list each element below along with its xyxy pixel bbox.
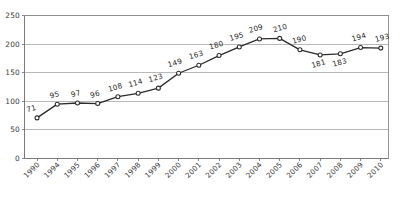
chart-canvas: 050100150200250 199019941995199619971998… [0, 0, 407, 197]
x-tick-label-2000: 2000 [163, 160, 183, 180]
data-point-label-2007: 181 [310, 57, 326, 70]
data-point-marker [96, 102, 100, 106]
data-point-label-2010: 193 [374, 31, 391, 44]
data-point-marker [278, 36, 282, 40]
data-point-marker [55, 102, 59, 106]
x-tick-label-2004: 2004 [244, 160, 264, 180]
x-tick-label-2006: 2006 [284, 160, 304, 180]
x-tick-label-2007: 2007 [305, 160, 325, 180]
x-tick-label-2009: 2009 [345, 160, 365, 180]
x-tick-label-1998: 1998 [123, 160, 143, 180]
data-point-label-1998: 114 [127, 77, 144, 90]
data-point-label-1999: 123 [147, 71, 164, 84]
data-point-label-2001: 163 [188, 48, 205, 61]
x-tick-label-2005: 2005 [264, 160, 284, 180]
data-point-label-2003: 195 [228, 30, 244, 43]
y-tick-label-0: 0 [15, 154, 20, 163]
data-point-value-labels: 7195979610811412314916318019520921019018… [25, 22, 390, 115]
x-tick-label-2010: 2010 [365, 160, 385, 180]
data-point-label-2009: 194 [351, 31, 368, 44]
series-polyline [37, 38, 381, 118]
x-tick-label-1999: 1999 [143, 160, 163, 180]
x-tick-label-1996: 1996 [82, 160, 102, 180]
x-tick-label-2001: 2001 [183, 160, 203, 180]
x-axis-tick-labels: 1990199419951996199719981999200020012002… [22, 159, 386, 180]
x-tick-label-1995: 1995 [62, 160, 82, 180]
data-point-label-1994: 95 [49, 89, 61, 100]
data-point-marker [318, 53, 322, 57]
data-point-label-1996: 96 [89, 88, 101, 99]
x-tick-label-1990: 1990 [22, 160, 42, 180]
data-point-marker [156, 86, 160, 90]
data-point-marker [379, 46, 383, 50]
data-point-marker [237, 45, 241, 49]
data-point-marker [257, 37, 261, 41]
data-point-label-2008: 183 [331, 56, 348, 69]
y-tick-label-200: 200 [5, 40, 20, 49]
y-tick-label-250: 250 [5, 11, 20, 20]
x-tick-label-2003: 2003 [224, 160, 244, 180]
data-point-marker [75, 101, 79, 105]
data-point-marker [298, 48, 302, 52]
x-tick-label-2008: 2008 [325, 160, 345, 180]
data-series-line [37, 38, 381, 118]
data-point-marker [359, 46, 363, 50]
x-tick-label-1994: 1994 [42, 160, 62, 180]
y-tick-label-50: 50 [10, 125, 20, 134]
data-point-label-2000: 149 [167, 56, 184, 69]
data-point-marker [35, 116, 39, 120]
data-point-marker [217, 54, 221, 58]
data-point-marker [177, 71, 181, 75]
data-point-label-2005: 210 [272, 22, 289, 35]
data-point-marker [136, 91, 140, 95]
y-axis-tick-labels: 050100150200250 [5, 11, 24, 163]
x-tick-label-2002: 2002 [204, 160, 224, 180]
plot-frame [25, 16, 389, 159]
data-point-marker [338, 52, 342, 56]
line-chart-figure: 050100150200250 199019941995199619971998… [0, 0, 407, 197]
data-point-label-1995: 97 [70, 88, 82, 99]
data-point-label-1997: 108 [107, 81, 124, 94]
data-point-label-2002: 180 [208, 39, 225, 52]
data-point-label-1990: 71 [25, 103, 37, 114]
x-tick-label-1997: 1997 [102, 160, 122, 180]
y-tick-label-100: 100 [5, 97, 20, 106]
data-point-marker [116, 95, 120, 99]
data-point-label-2004: 209 [248, 22, 265, 35]
y-tick-label-150: 150 [5, 68, 20, 77]
gridlines-group [25, 16, 389, 130]
data-point-marker [197, 63, 201, 67]
